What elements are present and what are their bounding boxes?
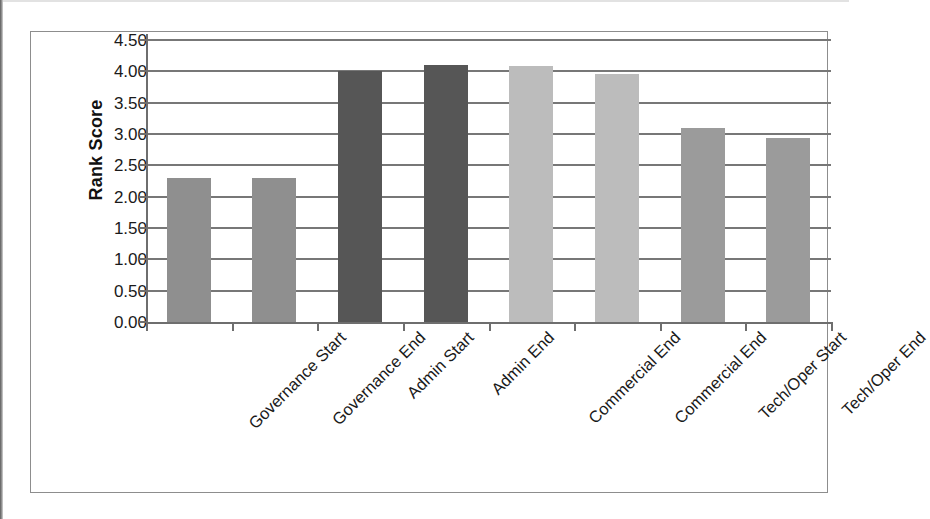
bar	[252, 178, 296, 322]
x-axis-tick-label: Tech/Oper End	[838, 328, 929, 419]
gridline	[146, 196, 831, 198]
gridline	[146, 258, 831, 260]
scan-edge-left	[0, 0, 3, 519]
y-axis-tick	[139, 258, 148, 260]
y-axis-tick	[139, 102, 148, 104]
gridline	[146, 227, 831, 229]
x-axis-tick-label: Commercial End	[671, 328, 771, 428]
bar	[681, 128, 725, 322]
gridline	[146, 164, 831, 166]
y-axis-tick	[139, 70, 148, 72]
y-axis-tick	[139, 164, 148, 166]
bar	[595, 74, 639, 322]
gridline	[146, 290, 831, 292]
gridline	[146, 39, 831, 41]
gridline	[146, 133, 831, 135]
y-axis-tick	[139, 196, 148, 198]
plot-area	[146, 40, 831, 322]
gridline	[146, 102, 831, 104]
x-axis-tick-labels: Governance StartGovernance EndAdmin Star…	[146, 328, 846, 488]
scan-edge-top	[0, 0, 849, 2]
gridline	[146, 70, 831, 72]
x-axis-tick-label: Commercial End	[585, 328, 685, 428]
y-axis-tick	[139, 290, 148, 292]
bar	[509, 66, 553, 322]
x-axis-tick-label: Admin End	[487, 328, 558, 399]
bar	[338, 71, 382, 322]
figure-frame: Rank Score 4.504.003.503.002.502.001.501…	[30, 31, 828, 493]
bar	[424, 65, 468, 322]
bar	[766, 138, 810, 322]
y-axis-line	[146, 34, 148, 328]
bar-chart: Rank Score 4.504.003.503.002.502.001.501…	[31, 32, 829, 494]
bar	[167, 178, 211, 322]
y-axis-tick	[139, 227, 148, 229]
y-axis-tick	[139, 39, 148, 41]
y-axis-tick-labels: 4.504.003.503.002.502.001.501.000.500.00	[89, 40, 147, 322]
y-axis-tick	[139, 133, 148, 135]
